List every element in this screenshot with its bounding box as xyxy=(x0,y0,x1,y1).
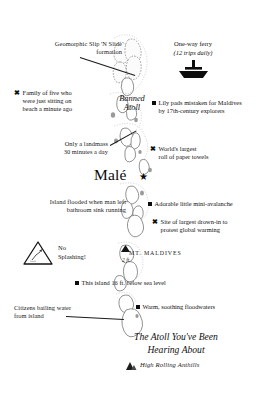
warning-triangle-icon xyxy=(22,240,54,270)
x-mark-icon: ✖ xyxy=(152,219,158,226)
warning-caption-line-1: No xyxy=(58,244,86,253)
footer-label: High Rolling Anthills xyxy=(140,361,199,369)
page-title-line-2: Hearing About xyxy=(96,344,256,357)
callout-bailing-water-line-1: Citizens bailing water xyxy=(14,304,106,312)
callout-mini-avalanche: Adorable little mini-avalanche xyxy=(148,200,264,208)
callout-slip-n-slide-line-1: Geomorphic Slip 'N Slide xyxy=(24,40,122,48)
banned-atoll-label-line-2: Atoll xyxy=(109,103,155,112)
callout-landmass-30-minutes: Only a landmass 30 minutes a day xyxy=(22,140,108,156)
callout-drown-in: ✖ Site of largest drown-in to protest gl… xyxy=(152,218,266,234)
ferry-caption: One-way ferry (12 trips daily) xyxy=(158,40,228,57)
callout-family-of-five-line-2: were just sitting on xyxy=(23,97,73,105)
warning-caption-line-2: Splashing! xyxy=(58,253,86,262)
callout-mini-avalanche-line-1: Adorable little mini-avalanche xyxy=(155,200,233,208)
central-atoll-group xyxy=(114,123,148,164)
callout-sink-running-line-1: Island flooded when man left xyxy=(14,198,126,206)
callout-paper-towels-line-1: World's largest xyxy=(159,145,209,153)
ferry-title: One-way ferry xyxy=(158,40,228,49)
callout-drown-in-line-2: protest global warming xyxy=(161,226,228,234)
drown-in-island-group xyxy=(127,215,143,237)
callout-landmass-30-minutes-line-2: 30 minutes a day xyxy=(22,148,108,156)
square-bullet-icon xyxy=(136,305,140,309)
callout-slip-n-slide: Geomorphic Slip 'N Slide formation xyxy=(24,40,122,56)
callout-family-of-five-line-1: Family of five who xyxy=(23,89,73,97)
callout-lily-pads: Lily pads mistaken for Maldives by 17th-… xyxy=(152,99,268,115)
banned-atoll-label: Banned Atoll xyxy=(109,94,155,113)
callout-slip-n-slide-line-2: formation xyxy=(24,48,122,56)
x-mark-icon: ✖ xyxy=(150,146,156,153)
mountain-icon xyxy=(125,361,137,371)
page-title-line-1: The Atoll You've Been xyxy=(96,331,256,344)
page-title: The Atoll You've Been Hearing About xyxy=(96,331,256,356)
banned-atoll-label-line-1: Banned xyxy=(109,94,155,103)
ferry-subtitle: (12 trips daily) xyxy=(158,49,228,58)
callout-floodwaters: Warm, soothing floodwaters xyxy=(136,303,256,311)
callout-below-sea-level: This island 16 ft. below sea level xyxy=(75,279,215,287)
callout-landmass-30-minutes-line-1: Only a landmass xyxy=(22,140,108,148)
callout-paper-towels: ✖ World's largest roll of paper towels xyxy=(150,145,262,161)
mt-maldives-label: MT. MALDIVES xyxy=(129,250,182,257)
callout-floodwaters-line-1: Warm, soothing floodwaters xyxy=(143,303,215,311)
callout-family-of-five-line-3: beach a minute ago xyxy=(23,105,73,113)
callout-drown-in-line-1: Site of largest drown-in to xyxy=(161,218,228,226)
square-bullet-icon xyxy=(152,101,156,105)
callout-bailing-water-line-2: from island xyxy=(14,312,106,320)
warning-caption: No Splashing! xyxy=(58,244,86,261)
capital-city-label: Malé xyxy=(94,167,127,183)
callout-lily-pads-line-1: Lily pads mistaken for Maldives xyxy=(159,99,242,107)
mt-maldives-elevation: 2 ft. xyxy=(122,257,131,263)
square-bullet-icon xyxy=(75,281,79,285)
star-icon: ★ xyxy=(139,172,148,182)
square-bullet-icon xyxy=(148,202,152,206)
callout-below-sea-level-line-1: This island 16 ft. below sea level xyxy=(82,279,166,287)
callout-sink-running: Island flooded when man left bathroom si… xyxy=(14,198,126,214)
callout-paper-towels-line-2: roll of paper towels xyxy=(159,153,209,161)
callout-sink-running-line-2: bathroom sink running xyxy=(14,206,126,214)
x-mark-icon: ✖ xyxy=(14,90,20,97)
callout-lily-pads-line-2: by 17th-century explorers xyxy=(159,107,242,115)
satirical-map-canvas: Geomorphic Slip 'N Slide formation One-w… xyxy=(0,0,268,397)
ferry-boat-icon xyxy=(176,60,212,84)
